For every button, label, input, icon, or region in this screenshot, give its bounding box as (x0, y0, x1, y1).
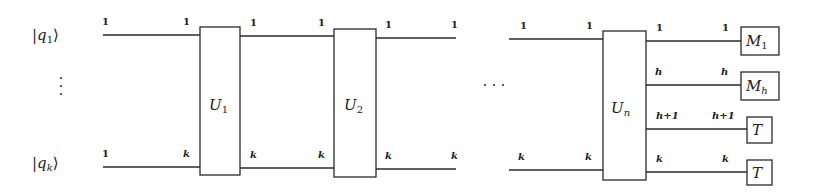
svg-text:T: T (752, 121, 763, 139)
svg-text:T: T (752, 164, 763, 182)
gate-un: Un (603, 31, 646, 180)
label-outh1-end: h+1 (712, 110, 735, 121)
input-ket-q1: |q1⟩ (32, 26, 59, 45)
label-seg3-top-start: 1 (385, 19, 392, 30)
label-seg1-top-end: 1 (183, 16, 190, 27)
label-seg1-bottom-end: k (183, 148, 190, 159)
label-seg4-top-end: 1 (586, 20, 593, 31)
label-outh-start: h (655, 66, 662, 77)
label-seg3-bottom-end: k (451, 150, 458, 161)
trace-box-t1: T (747, 117, 772, 143)
label-outh1-start: h+1 (656, 110, 679, 121)
gate-u1: U1 (200, 27, 240, 175)
label-seg1-bottom-start: 1 (102, 148, 109, 159)
trace-box-t2: T (747, 160, 772, 185)
svg-text:|qk⟩: |qk⟩ (32, 154, 59, 173)
label-seg2-bottom-start: k (250, 149, 257, 160)
label-seg3-bottom-start: k (385, 150, 392, 161)
label-outk-end: k (722, 153, 729, 164)
label-seg2-top-end: 1 (318, 17, 325, 28)
label-seg2-top-start: 1 (250, 17, 257, 28)
svg-text:|q1⟩: |q1⟩ (32, 26, 59, 45)
label-seg4-bottom-start: k (518, 151, 525, 162)
horizontal-ellipsis (484, 84, 504, 86)
label-out1-end: 1 (722, 22, 729, 33)
label-seg3-top-end: 1 (451, 19, 458, 30)
measure-box-m1: M1 (741, 27, 779, 55)
quantum-circuit: |q1⟩ |qk⟩ 1 1 1 k U1 1 1 k k U2 1 1 k k (0, 0, 814, 195)
label-out1-start: 1 (656, 22, 663, 33)
label-seg2-bottom-end: k (318, 149, 325, 160)
gate-u2: U2 (334, 29, 376, 177)
vertical-ellipsis (60, 77, 62, 95)
label-seg1-top-start: 1 (102, 16, 109, 27)
label-seg4-top-start: 1 (520, 20, 527, 31)
label-outk-start: k (656, 153, 663, 164)
measure-box-mh: Mh (741, 72, 779, 100)
label-outh-end: h (721, 66, 728, 77)
input-ket-qk: |qk⟩ (32, 154, 59, 173)
label-seg4-bottom-end: k (585, 151, 592, 162)
